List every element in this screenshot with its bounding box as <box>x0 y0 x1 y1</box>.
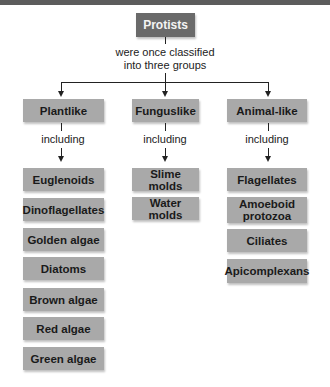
item-water-molds: Water molds <box>132 197 199 220</box>
item-brown-algae: Brown algae <box>23 288 104 311</box>
root-connector-text: were once classified into three groups <box>105 46 225 72</box>
arrow-down-icon <box>162 91 168 97</box>
connector-text-including: including <box>227 133 307 146</box>
item-apicomplexans: Apicomplexans <box>227 259 307 283</box>
item-flagellates: Flagellates <box>227 168 307 191</box>
root-node-label: Protists <box>143 19 188 31</box>
item-amoeboid-protozoa: Amoeboid protozoa <box>227 197 307 223</box>
group-node-animal-like: Animal-like <box>227 99 307 122</box>
item-ciliates: Ciliates <box>227 229 307 252</box>
item-red-algae: Red algae <box>23 317 104 340</box>
connector-line <box>268 123 270 131</box>
item-diatoms: Diatoms <box>23 257 104 280</box>
item-euglenoids: Euglenoids <box>23 168 104 191</box>
arrow-down-icon <box>58 156 64 162</box>
root-connector-line <box>165 37 167 44</box>
group-node-plantlike: Plantlike <box>23 99 104 122</box>
arrow-down-icon <box>58 91 64 97</box>
arrow-down-icon <box>265 91 271 97</box>
root-node-protists: Protists <box>136 13 195 37</box>
arrow-down-icon <box>162 156 168 162</box>
item-green-algae: Green algae <box>23 347 104 370</box>
connector-text-including: including <box>125 133 205 146</box>
group-node-funguslike: Funguslike <box>132 99 199 122</box>
connector-text-including: including <box>23 133 103 146</box>
item-slime-molds: Slime molds <box>132 168 199 191</box>
connector-line <box>165 123 167 131</box>
item-dinoflagellates: Dinoflagellates <box>23 198 104 221</box>
item-golden-algae: Golden algae <box>23 228 104 251</box>
top-band <box>0 0 330 5</box>
connector-line <box>61 123 63 131</box>
arrow-down-icon <box>265 156 271 162</box>
